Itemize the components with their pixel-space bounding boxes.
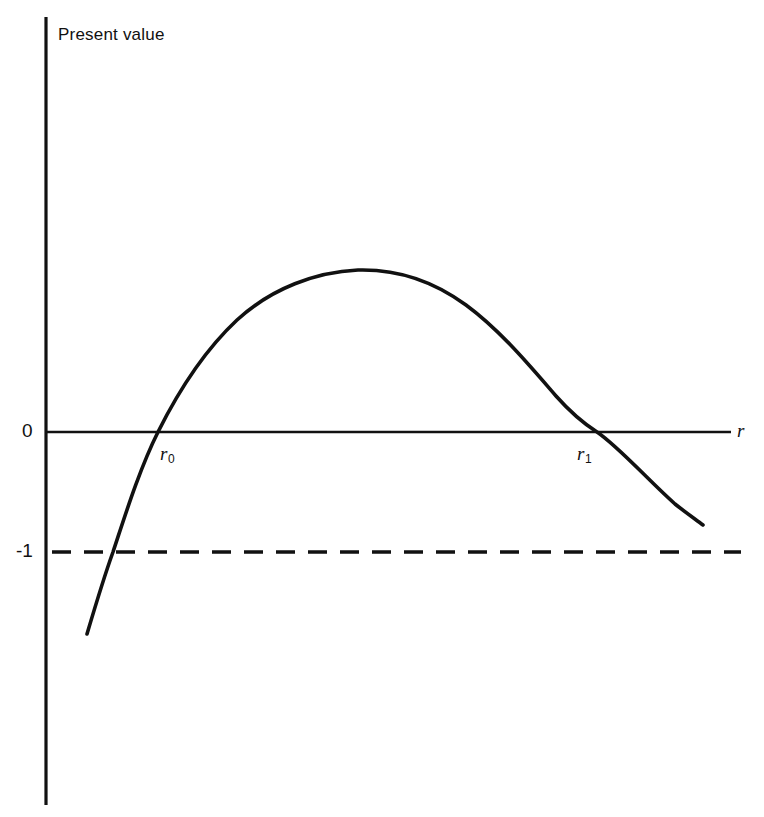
annotation-root-r1-subscript: 1 (585, 452, 592, 466)
annotation-root-r0: r0 (160, 444, 174, 463)
present-value-curve (87, 270, 703, 634)
annotation-root-r0-subscript: 0 (168, 452, 175, 466)
x-axis-label: r (737, 421, 744, 440)
y-tick-label-minus-one: -1 (16, 541, 33, 560)
y-tick-label-zero: 0 (22, 421, 33, 440)
annotation-root-r1-var: r (577, 443, 584, 464)
annotation-root-r0-var: r (160, 443, 167, 464)
chart-plot-area (0, 0, 764, 817)
annotation-root-r1: r1 (577, 444, 591, 463)
y-axis-label: Present value (58, 26, 165, 43)
chart-figure: Present value 0 -1 r r0 r1 (0, 0, 764, 817)
